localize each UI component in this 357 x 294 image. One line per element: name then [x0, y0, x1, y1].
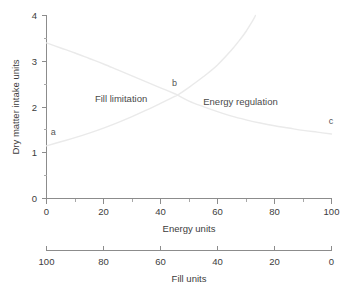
- y-axis: 0 1 2 3 4 Dry matter intake units: [10, 10, 47, 204]
- fill-tick-label-0: 0: [329, 256, 334, 267]
- data-curves: [47, 16, 332, 146]
- y-tick-label-0: 0: [32, 193, 37, 204]
- y-axis-tick-labels: 0 1 2 3 4: [32, 10, 37, 204]
- x-axis-title: Energy units: [163, 223, 216, 234]
- chart-container: 0 1 2 3 4 Dry matter intake units: [0, 0, 357, 294]
- y-tick-label-2: 2: [32, 102, 37, 113]
- fill-axis-tick-labels: 100 80 60 40 20 0: [39, 256, 335, 267]
- x-tick-label-100: 100: [324, 206, 340, 217]
- y-axis-title: Dry matter intake units: [10, 59, 21, 154]
- point-a-label: a: [51, 127, 56, 137]
- y-tick-label-3: 3: [32, 56, 37, 67]
- x-tick-label-20: 20: [98, 206, 109, 217]
- series-energy-regulation: [47, 16, 256, 146]
- fill-tick-label-40: 40: [212, 256, 223, 267]
- y-tick-label-1: 1: [32, 147, 37, 158]
- x-axis: 0 20 40 60 80 100 Energy units: [44, 199, 340, 235]
- fill-axis-title: Fill units: [172, 273, 207, 284]
- fill-tick-label-80: 80: [98, 256, 109, 267]
- fill-tick-label-20: 20: [269, 256, 280, 267]
- energy-regulation-label: Energy regulation: [203, 96, 277, 107]
- fill-axis-ticks: [47, 246, 332, 251]
- fill-limitation-label: Fill limitation: [95, 93, 147, 104]
- x-tick-label-0: 0: [44, 206, 49, 217]
- x-tick-label-40: 40: [155, 206, 166, 217]
- x-tick-label-80: 80: [269, 206, 280, 217]
- secondary-axis-fill-units: 100 80 60 40 20 0 Fill units: [39, 246, 335, 285]
- fill-tick-label-100: 100: [39, 256, 55, 267]
- x-axis-tick-labels: 0 20 40 60 80 100: [44, 206, 340, 217]
- point-b-label: b: [172, 78, 177, 88]
- x-tick-label-60: 60: [212, 206, 223, 217]
- y-tick-label-4: 4: [32, 10, 37, 21]
- series-fill-limitation: [47, 43, 332, 134]
- chart-svg: 0 1 2 3 4 Dry matter intake units: [0, 0, 357, 294]
- y-axis-major-ticks: [42, 16, 47, 199]
- point-c-label: c: [329, 116, 334, 126]
- fill-tick-label-60: 60: [155, 256, 166, 267]
